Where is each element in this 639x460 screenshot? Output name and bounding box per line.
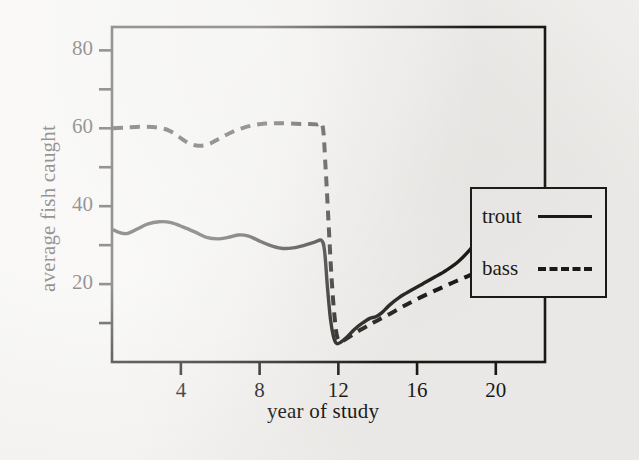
- legend[interactable]: trout bass: [470, 187, 607, 298]
- legend-entry-trout[interactable]: trout: [472, 201, 605, 231]
- y-tick-label-20: 20: [51, 270, 93, 295]
- legend-swatch-solid-line: [538, 209, 596, 223]
- x-tick-label-4: 4: [161, 378, 201, 403]
- legend-entry-bass[interactable]: bass: [472, 253, 605, 283]
- y-tick-label-80: 80: [51, 36, 93, 61]
- series-line-trout: [113, 219, 496, 344]
- legend-swatch-dashed-line: [538, 261, 596, 275]
- x-tick-label-20: 20: [476, 378, 516, 403]
- x-tick-label-8: 8: [240, 378, 280, 403]
- y-tick-label-60: 60: [51, 114, 93, 139]
- y-tick-label-40: 40: [51, 192, 93, 217]
- data-series: [113, 122, 496, 343]
- legend-label-bass: bass: [472, 256, 538, 281]
- series-line-bass: [113, 122, 496, 341]
- x-tick-label-16: 16: [397, 378, 437, 403]
- x-tick-label-12: 12: [318, 378, 358, 403]
- legend-label-trout: trout: [472, 204, 538, 229]
- chart-figure: average fish caught year of study 204060…: [0, 0, 639, 460]
- axis-ticks: [99, 50, 496, 375]
